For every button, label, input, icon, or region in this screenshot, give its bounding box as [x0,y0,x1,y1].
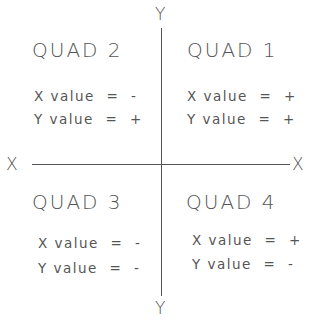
quadrant-diagram: Y Y X X QUAD 2 X value = - Y value = + Q… [0,0,309,326]
quadrant-4-title: QUAD 4 [186,192,277,212]
y-axis-line [161,28,162,296]
x-axis-label-right: X [292,156,304,173]
quadrant-2-x-value: X value = - [34,89,137,103]
quadrant-1-title: QUAD 1 [187,40,278,60]
quadrant-3-y-value: Y value = - [38,261,140,275]
quadrant-4-y-value: Y value = - [192,257,294,271]
quadrant-2-title: QUAD 2 [32,40,123,60]
quadrant-2-y-value: Y value = + [34,112,143,126]
y-axis-label-top: Y [155,6,165,23]
quadrant-3-title: QUAD 3 [32,192,123,212]
quadrant-4-x-value: X value = + [192,233,302,247]
quadrant-3-x-value: X value = - [38,236,141,250]
quadrant-1-y-value: Y value = + [187,112,296,126]
y-axis-label-bottom: Y [155,300,165,317]
x-axis-label-left: X [6,156,18,173]
quadrant-1-x-value: X value = + [187,89,297,103]
